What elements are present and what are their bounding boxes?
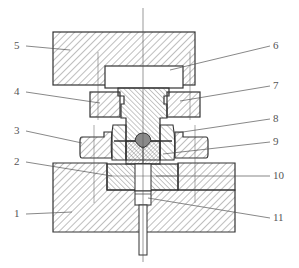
label-part-3: 3 — [14, 125, 20, 136]
lower-die-plate-part-2 — [107, 164, 178, 191]
label-part-6: 6 — [273, 40, 279, 51]
backer-pocket-part-6 — [105, 66, 183, 88]
extrusion-die-diagram: 1 2 3 4 5 6 7 8 9 10 11 — [0, 0, 299, 268]
die-cross-section — [0, 0, 299, 268]
label-part-9: 9 — [273, 136, 279, 147]
label-part-11: 11 — [273, 212, 284, 223]
label-part-4: 4 — [14, 86, 20, 97]
label-part-10: 10 — [273, 170, 284, 181]
label-part-1: 1 — [14, 208, 20, 219]
label-part-2: 2 — [14, 156, 20, 167]
label-part-8: 8 — [273, 113, 279, 124]
label-part-5: 5 — [14, 40, 20, 51]
label-part-7: 7 — [273, 80, 279, 91]
